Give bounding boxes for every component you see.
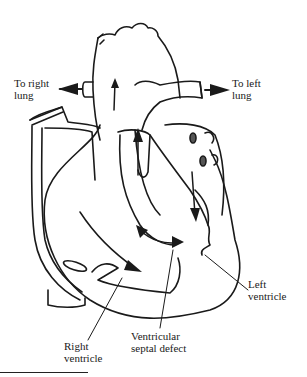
pulmonary-artery-left [135,81,202,130]
valve [62,258,87,273]
leader-vsd [160,250,173,328]
label-left-ventricle: Left ventricle [248,278,286,302]
leader-left-ventricle [205,255,248,290]
heart-diagram [0,0,307,377]
aortic-arch [98,24,180,99]
leader-right-ventricle [88,278,122,340]
label-ventricular-septal-defect: Ventricular septal defect [131,330,186,354]
septum [120,135,175,245]
label-right-ventricle: Right ventricle [64,340,102,364]
left-ventricle-wall [195,190,210,255]
footnote-rule [0,372,88,373]
pulmonary-artery-right [83,82,93,97]
superior-vena-cava [30,107,100,128]
arrow-right-ventricle [80,212,135,268]
label-to-right-lung: To right lung [14,77,49,101]
label-to-left-lung: To left lung [232,77,261,101]
